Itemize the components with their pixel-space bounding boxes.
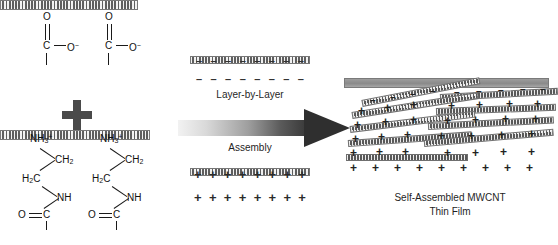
c-o-bond-1 (54, 45, 66, 46)
film-charge-plus: + (404, 129, 411, 141)
bond-ch2-to-ch2-2 (110, 160, 126, 171)
charge-minus: – (196, 74, 202, 85)
carbonyl-substrate-bond-1 (46, 221, 47, 230)
negative-layer-group: – – – – – – – – – – – – – – – – (190, 56, 310, 84)
oxygen-double-label-1: O (43, 12, 51, 22)
carbonyl-carbon-label-2: C (113, 210, 120, 220)
ch2-upper-text-1: CH (55, 154, 69, 165)
charge-plus: + (269, 191, 277, 204)
positive-layer-group: + + + + + + + + + + + + + + + + (190, 168, 310, 200)
film-charge-plus: + (402, 146, 409, 158)
film-charge-plus: + (532, 113, 539, 125)
film-charge-minus: – (476, 87, 482, 97)
film-charge-plus: + (350, 162, 357, 174)
charge-minus: – (211, 56, 217, 67)
charge-plus: + (209, 191, 217, 204)
amine-substrate-bar (0, 130, 150, 140)
film-charge-plus: + (500, 146, 507, 158)
process-label-layer-by-layer: Layer-by-Layer (190, 89, 310, 100)
film-charge-minus: – (540, 85, 546, 95)
charge-minus: – (211, 74, 217, 85)
film-charge-plus: + (394, 162, 401, 174)
charge-minus: – (283, 56, 289, 67)
carbonyl-double-b-1 (29, 217, 42, 218)
bond-ch2-to-nh-1 (42, 186, 58, 197)
film-charge-plus: + (472, 147, 479, 159)
film-charge-plus: + (372, 162, 379, 174)
charge-plus: + (239, 191, 247, 204)
reactant-amine-group: NH3+ CH2 H2C NH O C NH3+ CH2 H2C NH (0, 130, 180, 245)
bond-n-to-ch2-1 (40, 148, 56, 159)
film-charge-plus: + (350, 147, 357, 159)
ammonium-text-2: NH (100, 133, 114, 144)
carbonyl-double-a-2 (99, 213, 112, 214)
charge-plus: + (194, 191, 202, 204)
oxygen-anion-text-2: O (129, 42, 137, 53)
film-charge-plus: + (382, 116, 389, 128)
carbon-label-2: C (105, 41, 112, 51)
film-charge-plus: + (354, 119, 361, 131)
carboxylate-substrate-bar (0, 0, 138, 10)
charge-minus: – (298, 74, 304, 85)
charge-minus: – (298, 56, 304, 67)
film-charge-plus: + (468, 130, 475, 142)
charge-plus: + (239, 168, 247, 181)
carbonyl-double-a-1 (29, 213, 42, 214)
process-label-assembly: Assembly (190, 142, 310, 153)
ch2-upper-sub-1: 2 (69, 158, 73, 165)
film-charge-minus: – (430, 87, 436, 97)
ch2-upper-sub-2: 2 (139, 158, 143, 165)
charge-minus: – (240, 56, 246, 67)
ch2-lower-c-1: C (33, 173, 40, 184)
oxygen-anion-label-2: O− (129, 41, 141, 53)
double-bond-line-b-2 (111, 24, 112, 40)
negative-charges-top-row: – – – – – – – – (196, 56, 304, 67)
film-charge-plus: + (444, 115, 451, 127)
oxygen-double-label-2: O (105, 12, 113, 22)
carbonyl-oxygen-label-1: O (18, 210, 26, 220)
film-charge-plus: + (384, 102, 391, 114)
film-charge-plus: + (416, 162, 423, 174)
plus-operator (62, 100, 92, 130)
charge-minus: – (225, 74, 231, 85)
c-substrate-bond-1 (46, 53, 47, 65)
oxygen-anion-charge-2: − (137, 42, 141, 49)
c-substrate-bond-2 (108, 53, 109, 65)
film-charge-plus: + (534, 98, 541, 110)
charge-minus: – (269, 56, 275, 67)
charge-plus: + (194, 168, 202, 181)
ch2-lower-c-2: C (103, 173, 110, 184)
film-charge-plus: + (410, 114, 417, 126)
carbonyl-double-b-2 (99, 217, 112, 218)
charge-minus: – (225, 56, 231, 67)
charge-minus: – (269, 74, 275, 85)
film-charge-plus: + (528, 146, 535, 158)
film-charge-plus: + (444, 147, 451, 159)
bond-n-to-ch2-2 (110, 148, 126, 159)
charge-minus: – (254, 74, 260, 85)
positive-charges-top-row: + + + + + + + + (194, 168, 306, 181)
film-charge-plus: + (498, 129, 505, 141)
oxygen-anion-label-1: O− (67, 41, 79, 53)
ammonium-text-1: NH (30, 133, 44, 144)
film-charge-plus: + (352, 133, 359, 145)
assembly-arrow-shaft (178, 120, 306, 136)
charge-plus: + (298, 191, 306, 204)
bond-ch2-to-nh-2 (112, 186, 128, 197)
charge-plus: + (283, 168, 291, 181)
film-charge-plus: + (460, 162, 467, 174)
film-charge-plus: + (482, 162, 489, 174)
charge-minus: – (283, 74, 289, 85)
bond-ch2-to-ch2-1 (40, 160, 56, 171)
film-charge-minus: – (370, 96, 376, 106)
film-charge-plus: + (410, 99, 417, 111)
film-charge-minus: – (498, 86, 504, 96)
double-bond-line-b-1 (49, 24, 50, 40)
assembled-film-group: – – – – – – – – – + + + + + + + + + + + … (344, 78, 556, 188)
film-charge-minus: – (520, 85, 526, 95)
carbonyl-substrate-bond-2 (116, 221, 117, 230)
bond-nh-to-carbonyl-1 (44, 198, 60, 209)
ch2-lower-label-1: H2C (22, 174, 40, 186)
negative-charges-bottom-row: – – – – – – – – (196, 74, 304, 85)
